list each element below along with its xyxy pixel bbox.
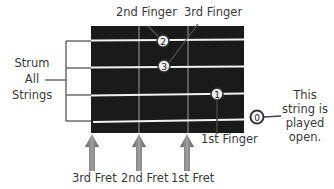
label-2nd-fret: 2nd Fret [121, 172, 168, 185]
finger-marker-1: 1 [211, 88, 223, 100]
strum-line1: Strum [12, 57, 52, 70]
label-1st-fret: 1st Fret [171, 172, 214, 185]
strum-line2: All [12, 73, 52, 86]
open-line2: string is [276, 103, 334, 116]
open-line4: open. [276, 131, 334, 144]
open-line3: played [276, 117, 334, 130]
finger-marker-2: 2 [157, 35, 169, 47]
label-3rd-finger: 3rd Finger [184, 6, 242, 19]
label-1st-finger: 1st Finger [201, 133, 258, 146]
open-line1: This [276, 89, 334, 102]
svg-text:1: 1 [214, 90, 220, 100]
arrow-2nd-fret [132, 134, 146, 171]
svg-text:0: 0 [254, 113, 260, 123]
arrow-1st-fret [180, 134, 194, 171]
arrow-3rd-fret [85, 134, 99, 171]
svg-text:2: 2 [160, 37, 166, 47]
label-2nd-finger: 2nd Finger [116, 6, 177, 19]
svg-text:3: 3 [161, 62, 167, 72]
label-open-string: This string is played open. [276, 89, 334, 144]
label-3rd-fret: 3rd Fret [72, 172, 117, 185]
open-string-marker: 0 [251, 111, 264, 124]
strum-line3: Strings [12, 89, 52, 102]
label-strum: Strum All Strings [12, 57, 52, 102]
finger-marker-3: 3 [158, 60, 170, 72]
